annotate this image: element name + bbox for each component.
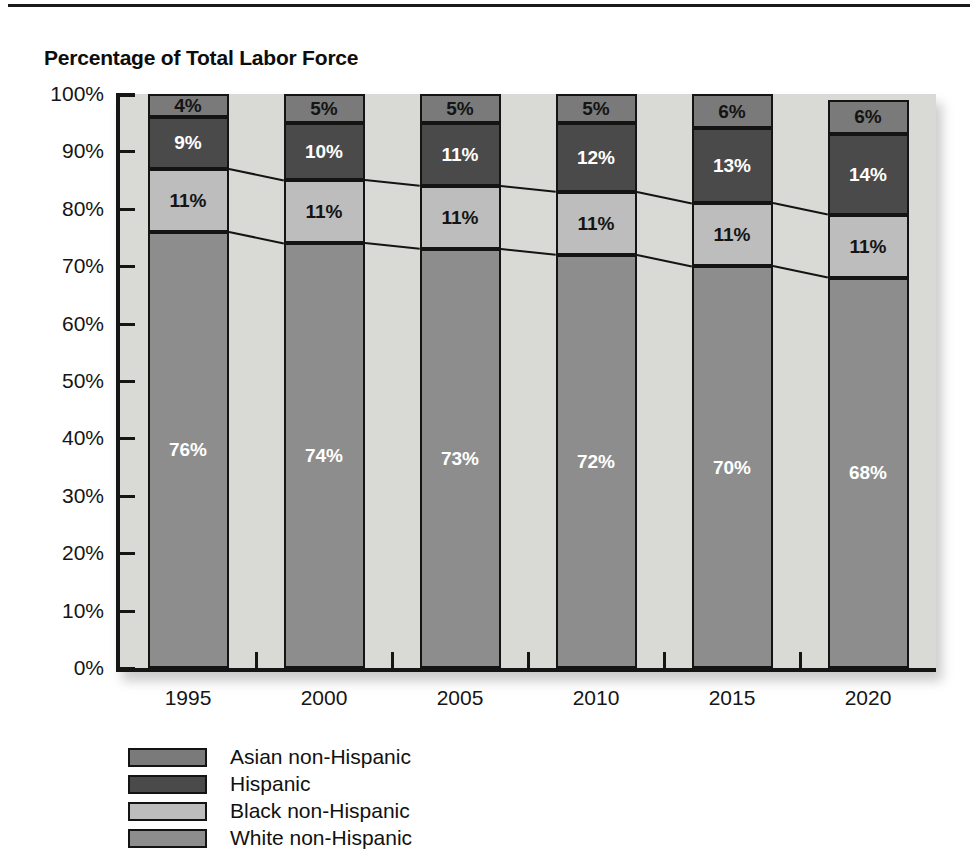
y-axis-tick [120,495,135,498]
black-nonhispanic-top-connector [228,168,283,181]
bar-segment-label: 14% [849,165,887,184]
x-axis-tick [799,652,802,668]
black-nonhispanic-top-connector [500,185,555,193]
plot-area: 76%11%9%4%74%11%10%5%73%11%11%5%72%11%12… [116,94,936,672]
bar-segment-label: 11% [442,145,479,164]
y-axis-labels: 100%90%80%70%60%50%40%30%20%10%0% [0,94,104,672]
bar-2000[interactable]: 74%11%10%5% [284,94,365,668]
white-nonhispanic-top-connector [500,248,555,256]
y-axis-tick-label: 20% [62,541,104,565]
bar-segment-2005-black-non-hispanic[interactable]: 11% [420,186,501,249]
bar-segment-label: 13% [713,156,751,175]
bar-segment-label: 68% [849,463,887,482]
bar-segment-2020-black-non-hispanic[interactable]: 11% [828,215,909,278]
bar-segment-label: 11% [578,214,615,233]
bar-segment-label: 10% [305,142,343,161]
bar-1995[interactable]: 76%11%9%4% [148,94,229,668]
bar-segment-2015-black-non-hispanic[interactable]: 11% [692,203,773,266]
x-axis-label-1995: 1995 [165,686,212,710]
y-axis-tick-label: 30% [62,484,104,508]
bar-segment-2020-hispanic[interactable]: 14% [828,134,909,214]
bar-segment-2010-black-non-hispanic[interactable]: 11% [556,192,637,255]
x-axis-tick [391,652,394,668]
bar-segment-label: 5% [582,99,609,118]
legend-item-black-non-hispanic[interactable]: Black non-Hispanic [128,798,548,824]
bar-segment-1995-black-non-hispanic[interactable]: 11% [148,169,229,232]
y-axis-tick-label: 100% [50,82,104,106]
bar-segment-2010-asian-non-hispanic[interactable]: 5% [556,94,637,123]
y-axis-tick [120,667,135,670]
legend-swatch [128,829,207,848]
x-axis-tick [255,652,258,668]
white-nonhispanic-top-connector [636,254,691,267]
x-axis-label-2010: 2010 [573,686,620,710]
black-nonhispanic-top-connector [364,179,419,187]
y-axis-tick [120,208,135,211]
y-axis-tick-label: 0% [74,656,104,680]
bar-segment-label: 5% [310,99,337,118]
legend-item-white-non-hispanic[interactable]: White non-Hispanic [128,825,548,851]
bar-segment-2015-asian-non-hispanic[interactable]: 6% [692,94,773,128]
bar-segment-label: 11% [306,202,343,221]
legend-swatch [128,775,207,794]
bar-segment-1995-asian-non-hispanic[interactable]: 4% [148,94,229,117]
legend-label: White non-Hispanic [230,826,412,850]
bar-segment-label: 4% [174,96,201,115]
y-axis-tick [120,323,135,326]
legend-label: Black non-Hispanic [230,799,410,823]
bar-segment-label: 6% [718,102,745,121]
y-axis-tick-label: 70% [62,254,104,278]
black-nonhispanic-top-connector [636,191,691,204]
bar-segment-label: 5% [446,99,473,118]
bar-2005[interactable]: 73%11%11%5% [420,94,501,668]
white-nonhispanic-top-connector [228,231,283,244]
bar-segment-2015-white-non-hispanic[interactable]: 70% [692,266,773,668]
page-title: Percentage of Total Labor Force [44,46,358,70]
bar-segment-1995-white-non-hispanic[interactable]: 76% [148,232,229,668]
legend-swatch [128,748,207,767]
y-axis-tick-label: 50% [62,369,104,393]
white-nonhispanic-top-connector [772,265,827,278]
x-axis-label-2000: 2000 [301,686,348,710]
bar-segment-2000-asian-non-hispanic[interactable]: 5% [284,94,365,123]
y-axis-tick-label: 10% [62,599,104,623]
bar-segment-2000-black-non-hispanic[interactable]: 11% [284,180,365,243]
bar-segment-label: 70% [713,458,751,477]
y-axis-tick [120,380,135,383]
bar-segment-label: 9% [174,133,201,152]
bar-segment-2000-hispanic[interactable]: 10% [284,123,365,180]
y-axis-tick-label: 90% [62,139,104,163]
bar-segment-2020-asian-non-hispanic[interactable]: 6% [828,100,909,134]
bar-segment-2015-hispanic[interactable]: 13% [692,128,773,203]
bar-segment-label: 11% [170,191,207,210]
x-axis-label-2020: 2020 [845,686,892,710]
bar-segment-label: 11% [442,208,479,227]
x-axis-tick [663,652,666,668]
bar-segment-label: 74% [305,446,343,465]
bar-segment-2010-white-non-hispanic[interactable]: 72% [556,255,637,668]
y-axis-tick [120,265,135,268]
top-divider-rule [8,4,970,7]
bar-segment-2005-asian-non-hispanic[interactable]: 5% [420,94,501,123]
bar-segment-2020-white-non-hispanic[interactable]: 68% [828,278,909,668]
bar-2020[interactable]: 68%11%14%6% [828,94,909,668]
legend-item-hispanic[interactable]: Hispanic [128,771,548,797]
bar-2010[interactable]: 72%11%12%5% [556,94,637,668]
bar-segment-label: 12% [577,148,615,167]
bar-segment-1995-hispanic[interactable]: 9% [148,117,229,169]
legend-item-asian-non-hispanic[interactable]: Asian non-Hispanic [128,744,548,770]
y-axis-tick [120,150,135,153]
bar-segment-2010-hispanic[interactable]: 12% [556,123,637,192]
bar-segment-label: 76% [169,440,207,459]
bar-segment-label: 73% [441,449,479,468]
legend-label: Hispanic [230,772,311,796]
x-axis-label-2005: 2005 [437,686,484,710]
bar-2015[interactable]: 70%11%13%6% [692,94,773,668]
y-axis-tick [116,93,135,97]
bar-segment-2000-white-non-hispanic[interactable]: 74% [284,243,365,668]
bar-segment-label: 11% [714,225,751,244]
bar-segment-2005-hispanic[interactable]: 11% [420,123,501,186]
bar-segment-2005-white-non-hispanic[interactable]: 73% [420,249,501,668]
plot-inner: 76%11%9%4%74%11%10%5%73%11%11%5%72%11%12… [120,94,936,668]
bar-segment-label: 6% [854,107,881,126]
